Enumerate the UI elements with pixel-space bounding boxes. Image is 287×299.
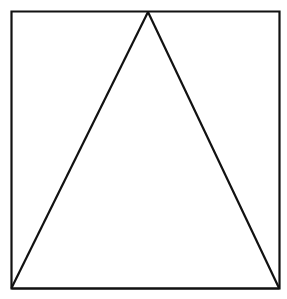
triangle-left-side <box>12 12 149 288</box>
triangle-right-side <box>148 12 279 288</box>
square-outline <box>12 12 280 289</box>
diagram-canvas <box>0 0 287 299</box>
